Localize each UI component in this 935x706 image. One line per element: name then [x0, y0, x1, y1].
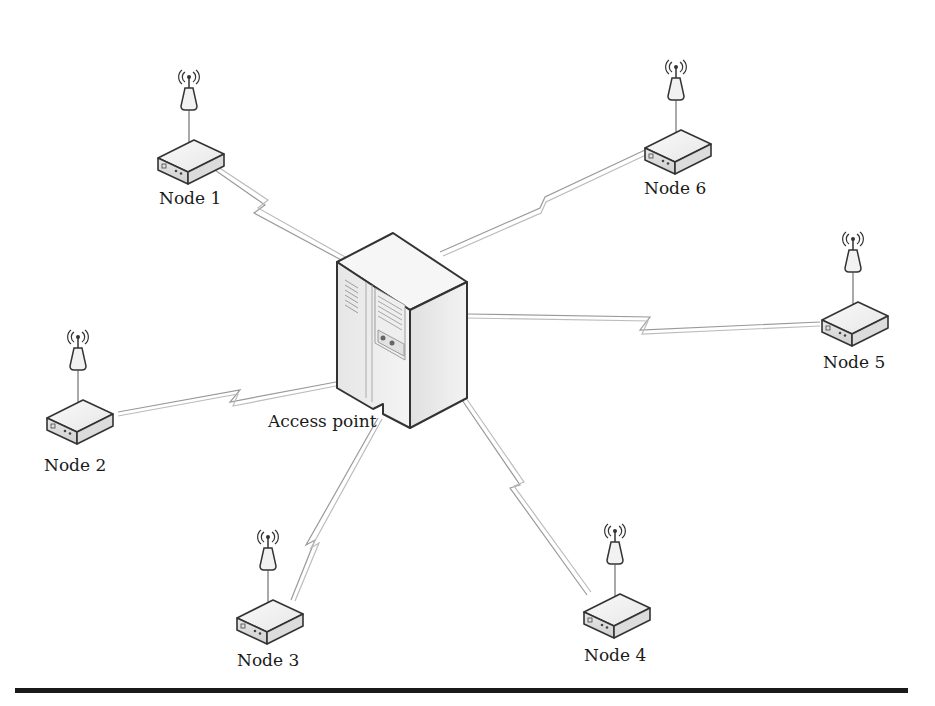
link-node-3: [291, 418, 382, 601]
node-3-label: Node 3: [237, 652, 299, 669]
links: [118, 150, 820, 601]
link-node-1: [212, 165, 347, 262]
node-1-label: Node 1: [159, 190, 221, 207]
node-2-label: Node 2: [44, 457, 106, 474]
link-node-6: [440, 150, 648, 256]
node-3-router-icon: [237, 530, 303, 644]
network-diagram: Node 1 Node 6 Node 5 Node 2 Node 3 Node …: [0, 0, 935, 706]
node-6-label: Node 6: [644, 180, 706, 197]
node-1-router-icon: [158, 70, 224, 184]
access-point-label: Access point: [268, 413, 377, 430]
node-4-router-icon: [584, 524, 650, 638]
node-4-label: Node 4: [584, 647, 646, 664]
node-2-router-icon: [47, 330, 113, 444]
node-5-router-icon: [822, 232, 888, 346]
link-node-5: [466, 314, 820, 334]
bottom-rule-divider: [15, 688, 908, 693]
node-6-router-icon: [645, 60, 711, 174]
server-tower-icon: [337, 233, 467, 428]
link-node-4: [462, 398, 591, 595]
node-5-label: Node 5: [823, 354, 885, 371]
